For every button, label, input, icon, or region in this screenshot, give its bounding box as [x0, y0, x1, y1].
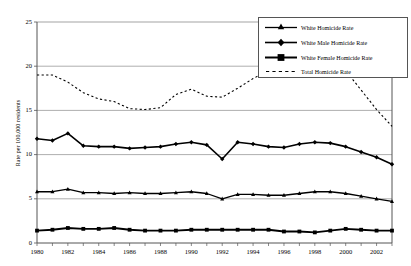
legend-item-white-male-homicide-rate: White Male Homicide Rate — [259, 35, 409, 50]
legend-label: White Homicide Rate — [301, 25, 353, 31]
legend-item-white-homicide-rate: White Homicide Rate — [259, 20, 409, 35]
y-axis-label: Rate per 100,000 residents — [15, 68, 21, 198]
x-axis-tick-2000: 2000 — [331, 249, 361, 256]
y-axis-tick-10: 10 — [10, 151, 32, 158]
y-axis-tick-0: 0 — [10, 240, 32, 247]
x-axis-tick-1988: 1988 — [145, 249, 175, 256]
x-axis-tick-1984: 1984 — [84, 249, 114, 256]
y-axis-tick-25: 25 — [10, 19, 32, 26]
legend-item-white-female-homicide-rate: White Female Homicide Rate — [259, 50, 409, 65]
legend-swatch-dashed-icon — [264, 66, 298, 77]
homicide-rate-line-chart: Rate per 100,000 residents 0510152025 19… — [0, 0, 411, 266]
x-axis-tick-2002: 2002 — [362, 249, 392, 256]
legend-swatch-triangle-icon — [264, 22, 298, 33]
x-axis-tick-1998: 1998 — [300, 249, 330, 256]
x-axis-tick-1992: 1992 — [207, 249, 237, 256]
x-axis-tick-1986: 1986 — [115, 249, 145, 256]
x-axis-tick-1996: 1996 — [269, 249, 299, 256]
legend-label: Total Homicide Rate — [301, 69, 351, 75]
y-axis-tick-5: 5 — [10, 195, 32, 202]
chart-legend: White Homicide Rate White Male Homicide … — [258, 17, 408, 78]
x-axis-tick-1982: 1982 — [53, 249, 83, 256]
x-axis-tick-1980: 1980 — [22, 249, 52, 256]
y-axis-tick-20: 20 — [10, 63, 32, 70]
legend-swatch-square-icon — [264, 52, 298, 63]
legend-label: White Male Homicide Rate — [301, 40, 367, 46]
x-axis-tick-1990: 1990 — [176, 249, 206, 256]
y-axis-tick-15: 15 — [10, 107, 32, 114]
legend-label: White Female Homicide Rate — [301, 55, 372, 61]
legend-item-total-homicide-rate: Total Homicide Rate — [259, 64, 409, 79]
legend-swatch-diamond-icon — [264, 37, 298, 48]
x-axis-tick-1994: 1994 — [238, 249, 268, 256]
